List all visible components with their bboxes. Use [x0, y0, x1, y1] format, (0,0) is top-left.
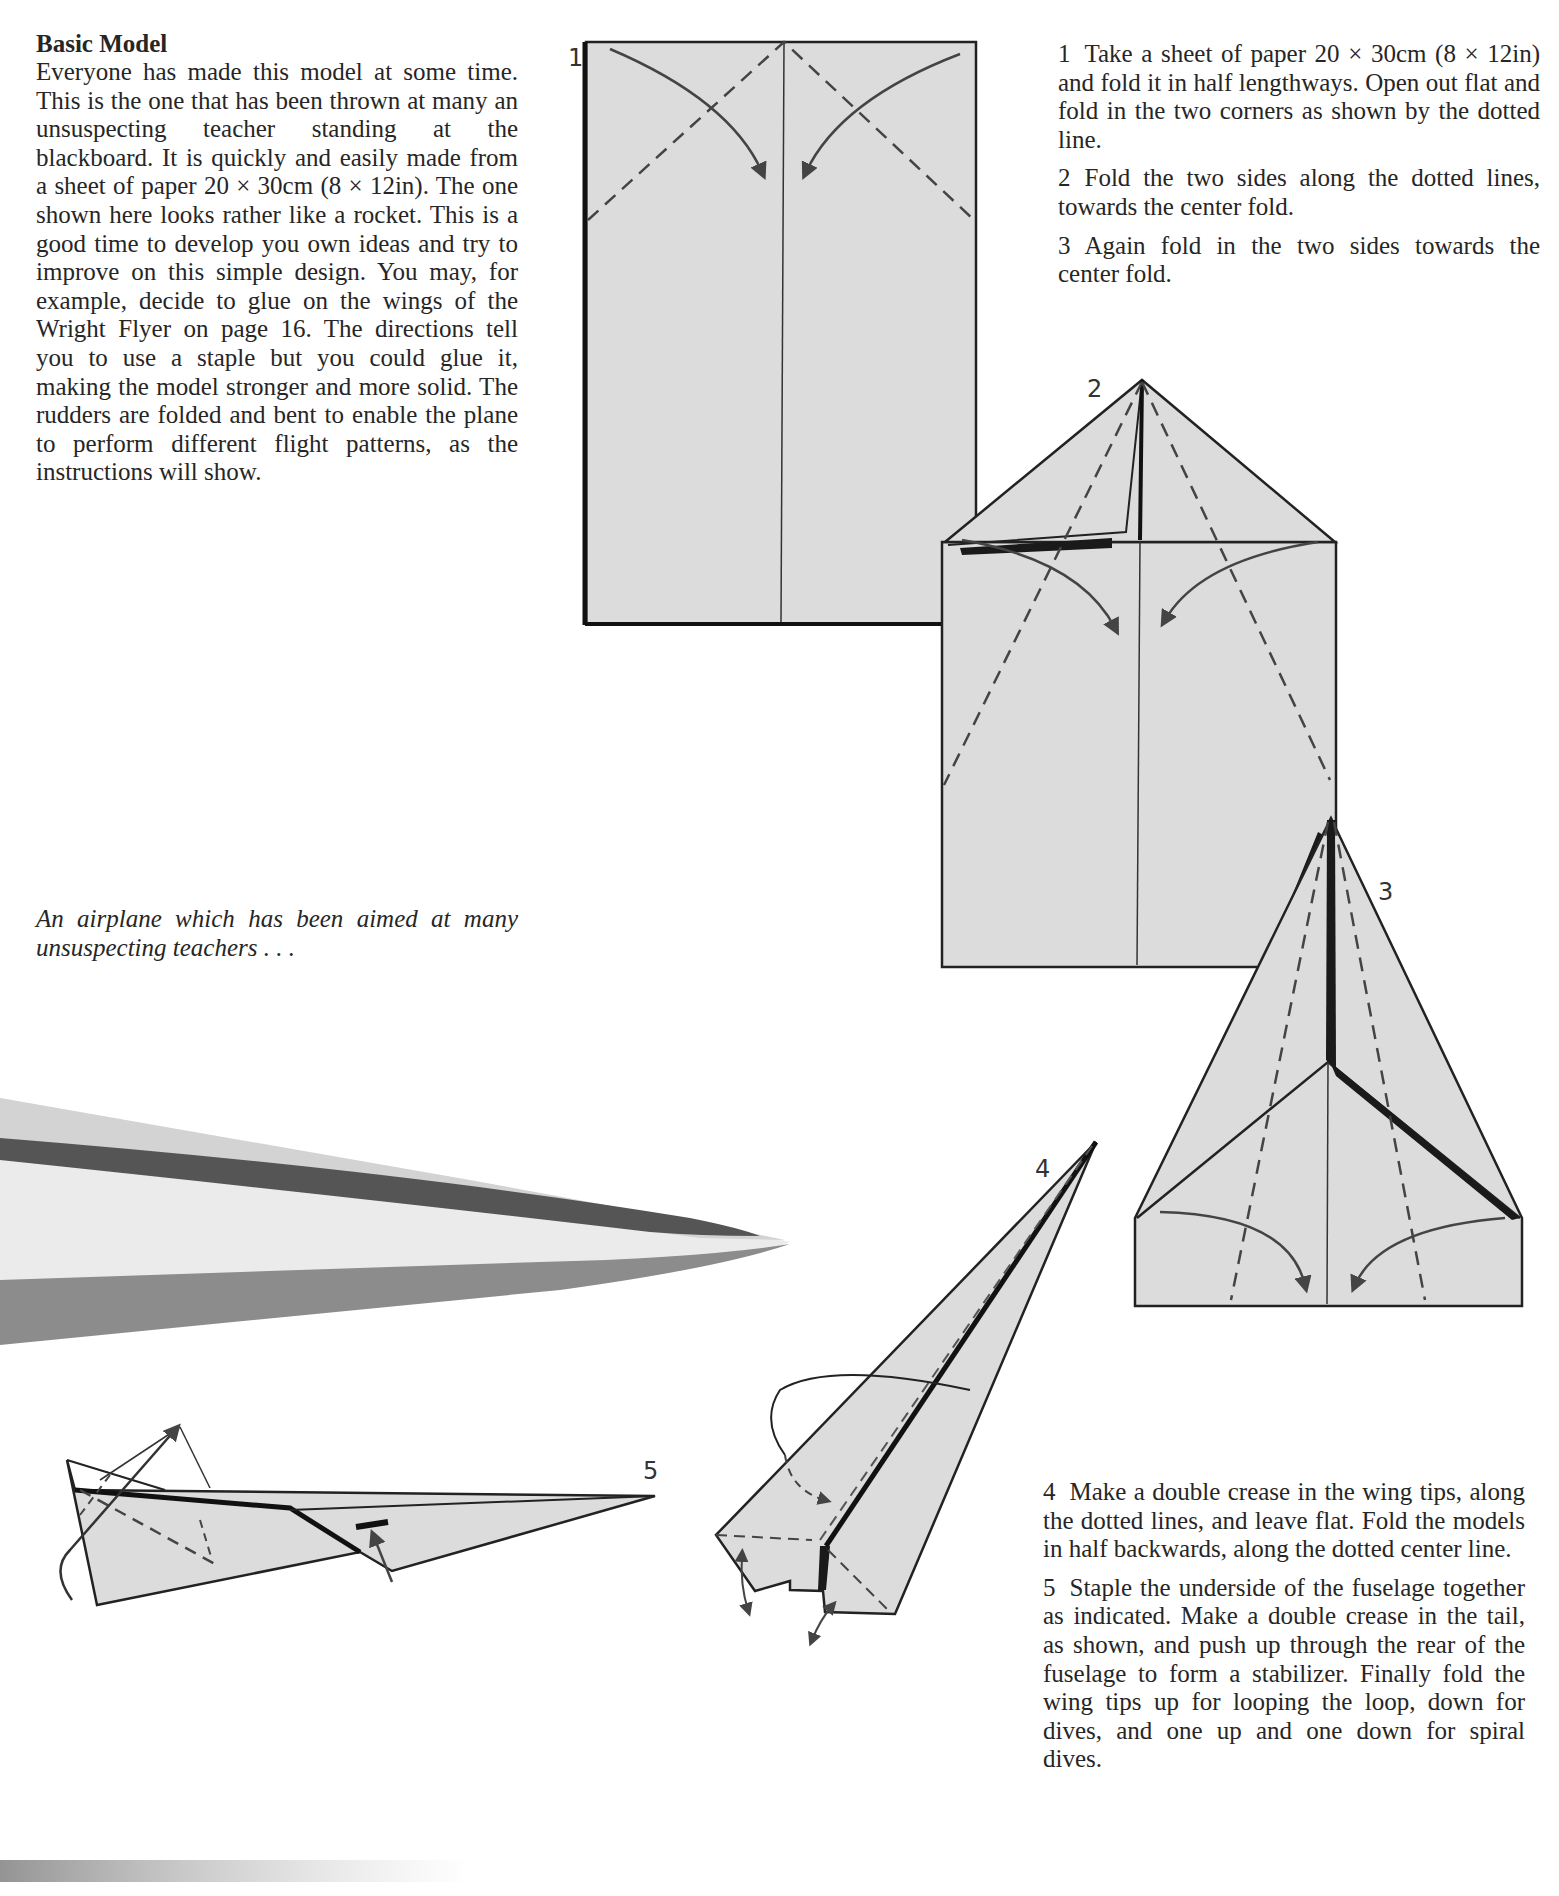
step-number: 2 [1058, 164, 1071, 191]
step-text: Staple the underside of the fuselage tog… [1043, 1574, 1525, 1773]
intro-section: Basic Model Everyone has made this model… [36, 30, 518, 487]
steps-1-to-3: 1Take a sheet of paper 20 × 30cm (8 × 12… [1058, 40, 1540, 289]
step-2: 2Fold the two sides along the dotted lin… [1058, 164, 1540, 221]
section-heading: Basic Model [36, 30, 518, 58]
photo-motion-blur [0, 1860, 470, 1882]
step-4: 4Make a double crease in the wing tips, … [1043, 1478, 1525, 1564]
diagram-step-2 [942, 380, 1336, 967]
step-number: 3 [1058, 232, 1071, 259]
diagram-step-1 [585, 42, 976, 625]
diagram-label-5: 5 [643, 1457, 658, 1485]
diagram-label-2: 2 [1087, 375, 1102, 403]
step-3: 3Again fold in the two sides towards the… [1058, 232, 1540, 289]
step-5: 5Staple the underside of the fuselage to… [1043, 1574, 1525, 1774]
photo-airplane-nose [0, 1098, 790, 1345]
diagram-step-4 [716, 1142, 1096, 1640]
step-number: 4 [1043, 1478, 1056, 1505]
diagram-label-3: 3 [1378, 878, 1393, 906]
step-text: Take a sheet of paper 20 × 30cm (8 × 12i… [1058, 40, 1540, 153]
step-number: 1 [1058, 40, 1071, 67]
step-text: Fold the two sides along the dotted line… [1058, 164, 1540, 220]
step-text: Make a double crease in the wing tips, a… [1043, 1478, 1525, 1562]
diagram-label-1: 1 [568, 44, 583, 72]
diagram-step-5 [60, 1427, 655, 1605]
photo-caption: An airplane which has been aimed at many… [36, 905, 518, 962]
step-number: 5 [1043, 1574, 1056, 1601]
diagram-label-4: 4 [1035, 1155, 1050, 1183]
intro-paragraph: Everyone has made this model at some tim… [36, 58, 518, 487]
step-text: Again fold in the two sides towards the … [1058, 232, 1540, 288]
step-1: 1Take a sheet of paper 20 × 30cm (8 × 12… [1058, 40, 1540, 154]
steps-4-to-5: 4Make a double crease in the wing tips, … [1043, 1478, 1525, 1774]
